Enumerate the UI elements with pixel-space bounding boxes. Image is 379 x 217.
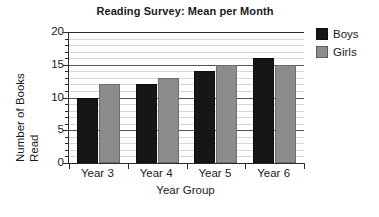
legend-item-girls: Girls [316,45,378,58]
x-axis-tick-label: Year 6 [242,167,306,179]
x-axis-tick-label: Year 5 [183,167,247,179]
y-axis-tick [65,104,69,105]
legend-label-girls: Girls [333,46,357,58]
y-axis-tick [65,39,69,40]
bar-girls-year-4 [158,78,179,163]
y-axis-tick-label: 15 [40,59,64,70]
y-axis-tick-labels: 05101520 [38,0,64,217]
gridline-minor [69,52,304,53]
y-axis-tick-label: 0 [40,157,64,168]
bar-boys-year-3 [77,98,98,164]
legend-item-boys: Boys [316,27,378,40]
y-axis-tick [65,45,69,46]
bar-boys-year-6 [253,58,274,163]
y-axis-tick-label: 5 [40,124,64,135]
bar-boys-year-4 [136,84,157,163]
girls-swatch-icon [316,46,328,58]
legend: Boys Girls [316,27,378,63]
y-axis-tick [65,58,69,59]
bar-chart: Reading Survey: Mean per Month Number of… [0,0,379,217]
y-axis-tick [63,130,69,131]
x-axis-title: Year Group [68,184,303,196]
y-axis-tick [65,52,69,53]
y-axis-tick [65,111,69,112]
y-axis-tick-label: 10 [40,92,64,103]
y-axis-title-line-1: Number of Books [14,73,26,162]
gridline-major [69,32,304,33]
bar-girls-year-3 [99,84,120,163]
x-axis-tick-label: Year 4 [124,167,188,179]
gridline-minor [69,39,304,40]
y-axis-tick [65,124,69,125]
y-axis-tick [65,91,69,92]
y-axis-tick [65,137,69,138]
y-axis-tick [65,84,69,85]
y-axis-tick [65,156,69,157]
chart-title: Reading Survey: Mean per Month [60,5,310,17]
plot-area [68,32,304,164]
legend-label-boys: Boys [333,28,359,40]
boys-swatch-icon [316,28,328,40]
y-axis-tick [65,71,69,72]
y-axis-tick [63,65,69,66]
gridline-minor [69,45,304,46]
bar-boys-year-5 [194,71,215,163]
y-axis-title: Number of Books Read [0,32,34,164]
y-axis-tick [65,78,69,79]
y-axis-tick [65,143,69,144]
bar-girls-year-5 [216,65,237,163]
y-axis-tick [63,32,69,33]
bar-girls-year-6 [275,65,296,163]
y-axis-tick [65,150,69,151]
x-axis-tick-label: Year 3 [65,167,129,179]
y-axis-tick [65,117,69,118]
y-axis-tick-label: 20 [40,26,64,37]
y-axis-tick [63,98,69,99]
